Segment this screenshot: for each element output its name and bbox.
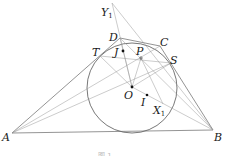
label-j: J	[112, 46, 119, 59]
figure-caption: 图 1	[98, 152, 112, 156]
point-i	[146, 94, 149, 97]
label-c: C	[160, 36, 169, 49]
label-x1: X1	[152, 104, 165, 118]
geometry-figure: A B C D T S P J O I X1 Y1 图 1	[0, 0, 225, 156]
label-d: D	[108, 31, 118, 44]
label-i: I	[140, 96, 146, 109]
point-j	[122, 50, 125, 53]
label-a: A	[1, 131, 10, 144]
point-o	[131, 86, 134, 89]
label-o: O	[124, 89, 133, 102]
label-s: S	[170, 54, 178, 67]
label-y1: Y1	[101, 6, 113, 20]
quadrilateral-sides	[12, 38, 213, 133]
auxiliary-lines	[12, 3, 213, 133]
label-p: P	[135, 45, 144, 58]
label-b: B	[213, 131, 222, 144]
